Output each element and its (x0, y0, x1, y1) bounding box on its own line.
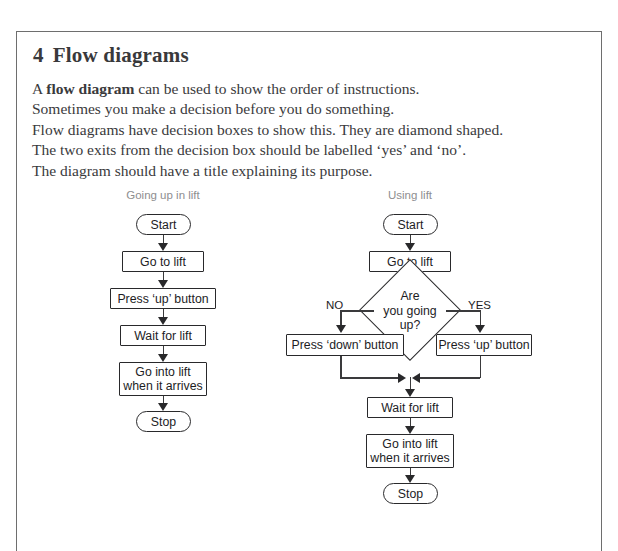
node-press-down-button: Press ‘down’ button (286, 334, 404, 356)
page-title: 4Flow diagrams (33, 43, 189, 68)
node-wait-for-lift: Wait for lift (120, 325, 206, 346)
node-go-into-lift: Go into lift when it arrives (119, 362, 207, 396)
arrow-down-icon (405, 389, 415, 397)
arrow-down-icon (405, 243, 415, 251)
connector (418, 377, 480, 379)
connector (340, 377, 402, 379)
section-heading-text: Flow diagrams (53, 43, 189, 67)
paragraph-line: A flow diagram can be used to show the o… (32, 79, 592, 99)
arrow-down-icon (158, 243, 168, 251)
paragraph-line: Sometimes you make a decision before you… (32, 99, 592, 119)
connector (446, 310, 481, 312)
diagram-title-using-lift: Using lift (360, 189, 460, 201)
line-post: can be used to show the order of instruc… (134, 80, 419, 97)
arrow-down-icon (405, 475, 415, 483)
paragraph-line: The two exits from the decision box shou… (32, 140, 592, 160)
arrow-down-icon (158, 280, 168, 288)
diagram-title-going-up-in-lift: Going up in lift (103, 189, 223, 201)
arrow-down-icon (158, 354, 168, 362)
line-pre: The two exits from the decision box shou… (32, 141, 466, 158)
section-number: 4 (33, 43, 44, 67)
line-pre: A (32, 80, 46, 97)
arrow-down-icon (336, 325, 346, 333)
node-stop: Stop (136, 411, 191, 432)
arrow-down-icon (158, 317, 168, 325)
arrow-down-icon (158, 403, 168, 411)
paragraph-line: Flow diagrams have decision boxes to sho… (32, 120, 592, 140)
node-decision-label: Are you going up? (372, 288, 448, 334)
node-press-up-button: Press ‘up’ button (110, 288, 216, 309)
connector (340, 310, 374, 312)
node-go-into-lift: Go into lift when it arrives (366, 434, 454, 468)
connector (340, 356, 342, 378)
arrow-down-icon (475, 325, 485, 333)
line-pre: Flow diagrams have decision boxes to sho… (32, 121, 503, 138)
line-pre: The diagram should have a title explaini… (32, 162, 373, 179)
arrow-right-icon (398, 373, 406, 383)
arrow-left-icon (412, 373, 420, 383)
arrow-down-icon (405, 426, 415, 434)
node-press-up-button: Press ‘up’ button (436, 334, 532, 356)
node-go-to-lift: Go to lift (122, 251, 204, 272)
line-pre: Sometimes you make a decision before you… (32, 100, 394, 117)
paragraph-line: The diagram should have a title explaini… (32, 161, 592, 181)
connector (480, 356, 482, 378)
node-stop: Stop (383, 483, 438, 504)
node-start: Start (383, 214, 438, 235)
node-start: Start (136, 214, 191, 235)
intro-paragraph: A flow diagram can be used to show the o… (32, 79, 592, 181)
line-bold: flow diagram (46, 80, 134, 97)
node-wait-for-lift: Wait for lift (367, 397, 453, 418)
